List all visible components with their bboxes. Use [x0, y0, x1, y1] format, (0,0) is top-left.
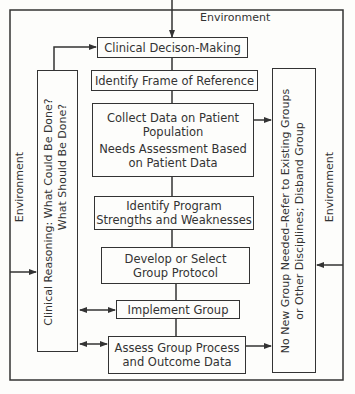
identify-frame-box: Identify Frame of Reference	[91, 70, 258, 91]
clinical-decision-making-box: Clinical Decison-Making	[97, 37, 248, 58]
clinical-reasoning-text: Clinical Reasoning: What Could Be Done? …	[42, 74, 72, 350]
program-line2: Strengths and Weaknesses	[96, 213, 252, 227]
develop-protocol-box: Develop or Select Group Protocol	[101, 247, 250, 284]
assess-group-box: Assess Group Process and Outcome Data	[108, 336, 246, 374]
environment-label-top: Environment	[200, 11, 270, 24]
assess-line2: and Outcome Data	[123, 355, 232, 369]
collect-line1: Collect Data on Patient	[107, 111, 239, 125]
protocol-line2: Group Protocol	[133, 266, 218, 280]
decision-text: Clinical Decison-Making	[104, 41, 240, 55]
clinical-reasoning-line2: What Should Be Done?	[56, 74, 70, 350]
implement-group-box: Implement Group	[116, 300, 240, 319]
program-line1: Identify Program	[126, 199, 222, 213]
assess-line1: Assess Group Process	[115, 341, 240, 355]
no-new-group-text: No New Group Needed–Refer to Existing Gr…	[279, 71, 309, 371]
needs-line2: on Patient Data	[128, 156, 217, 170]
no-new-group-line2: or Other Disciplines; Disband Group	[293, 71, 307, 371]
environment-label-right: Environment	[323, 147, 337, 227]
needs-line1: Needs Assessment Based	[99, 142, 247, 156]
clinical-reasoning-line1: Clinical Reasoning: What Could Be Done?	[42, 74, 56, 350]
no-new-group-line1: No New Group Needed–Refer to Existing Gr…	[279, 71, 293, 371]
protocol-line1: Develop or Select	[125, 252, 227, 266]
collect-data-box: Collect Data on Patient Population Needs…	[92, 103, 254, 177]
frame-text: Identify Frame of Reference	[95, 74, 254, 88]
environment-label-left: Environment	[13, 147, 27, 227]
identify-program-box: Identify Program Strengths and Weaknesse…	[94, 196, 254, 230]
collect-line2: Population	[143, 125, 203, 139]
implement-text: Implement Group	[128, 303, 229, 317]
